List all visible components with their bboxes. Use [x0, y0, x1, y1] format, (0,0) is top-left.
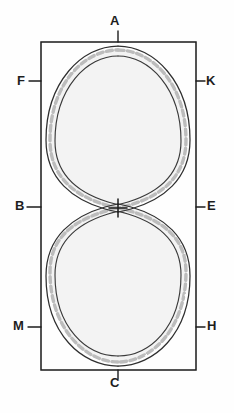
label-B: B — [15, 199, 25, 212]
figure-container: A C F B M K E H — [0, 0, 234, 413]
diagram-canvas — [0, 0, 234, 413]
label-H: H — [207, 319, 217, 332]
label-A: A — [110, 14, 120, 27]
label-M: M — [13, 319, 24, 332]
label-E: E — [207, 199, 216, 212]
label-C: C — [110, 376, 120, 389]
label-K: K — [206, 74, 216, 87]
label-F: F — [17, 74, 25, 87]
